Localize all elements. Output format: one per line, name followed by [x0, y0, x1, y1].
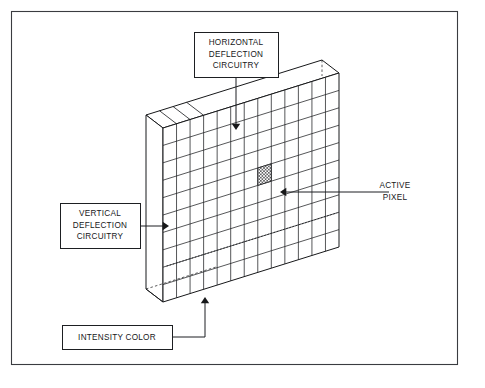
callout-label-line: VERTICAL: [79, 209, 121, 218]
callout-label-vertical-deflection-circuitry: VERTICALDEFLECTIONCIRCUITRY: [73, 209, 127, 241]
display-screen-diagram: HORIZONTALDEFLECTIONCIRCUITRYVERTICALDEF…: [0, 0, 485, 388]
callout-label-line: DEFLECTION: [73, 221, 127, 230]
figure-root: HORIZONTALDEFLECTIONCIRCUITRYVERTICALDEF…: [0, 0, 485, 388]
active-pixel-cell: [258, 164, 272, 186]
callout-label-line: ACTIVE: [379, 181, 410, 190]
callout-label-line: HORIZONTAL: [209, 38, 264, 47]
slab-left-face: [146, 115, 163, 302]
callout-label-horizontal-deflection-circuitry: HORIZONTALDEFLECTIONCIRCUITRY: [209, 38, 264, 70]
callout-label-line: CIRCUITRY: [213, 61, 260, 70]
callout-label-intensity-color: INTENSITY COLOR: [78, 333, 156, 342]
callout-label-line: CIRCUITRY: [77, 232, 124, 241]
callout-label-line: PIXEL: [383, 193, 408, 202]
callout-label-line: INTENSITY COLOR: [78, 333, 156, 342]
callout-label-line: DEFLECTION: [209, 50, 263, 59]
